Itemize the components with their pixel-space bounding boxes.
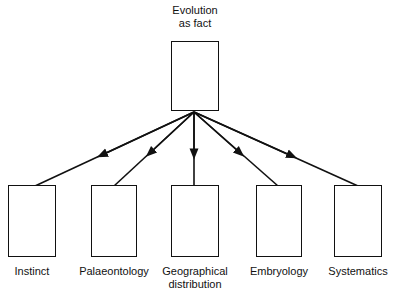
child-label-palaeontology: Palaeontology <box>69 265 159 278</box>
child-label-instinct: Instinct <box>0 265 72 278</box>
child-label-geographical: Geographical distribution <box>150 265 240 291</box>
child-box-systematics <box>334 185 382 257</box>
child-box-instinct <box>8 185 56 257</box>
root-box <box>171 41 219 111</box>
child-box-geographical <box>171 185 219 257</box>
child-box-palaeontology <box>91 185 137 257</box>
child-box-embryology <box>256 185 302 257</box>
root-label-line2: as fact <box>155 17 235 30</box>
child-label-embryology: Embryology <box>234 265 324 278</box>
root-label-line1: Evolution <box>155 4 235 17</box>
child-label-systematics: Systematics <box>316 265 396 278</box>
root-label: Evolution as fact <box>155 4 235 30</box>
evolution-diagram: Evolution as fact Instinct Palaeontology… <box>0 0 396 295</box>
